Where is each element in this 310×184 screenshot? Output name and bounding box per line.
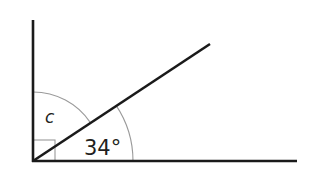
arc-angle-c xyxy=(33,92,90,122)
angle-diagram: c 34° xyxy=(0,0,310,184)
diagonal-ray xyxy=(33,44,210,161)
label-angle-c: c xyxy=(45,107,55,127)
label-angle-34: 34° xyxy=(84,136,121,160)
